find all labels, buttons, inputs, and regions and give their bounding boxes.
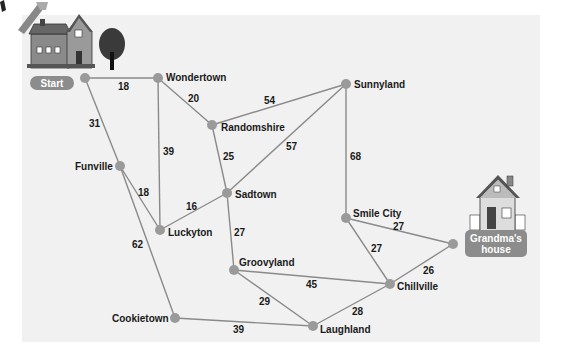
node-luckyton[interactable] <box>155 225 165 235</box>
weight-laughland-chillville: 28 <box>352 306 364 317</box>
weight-funville-cookietown: 62 <box>132 239 144 250</box>
edge-chillville-grandma <box>390 244 453 284</box>
weight-sadtown-groovyland: 27 <box>234 227 246 238</box>
start-house-icon <box>27 14 95 68</box>
label-sunnyland: Sunnyland <box>354 79 405 90</box>
edge-wondertown-luckyton <box>158 78 160 230</box>
weight-groovyland-laughland: 29 <box>259 296 271 307</box>
tree-icon <box>99 28 125 70</box>
weight-randomshire-sadtown: 25 <box>223 151 235 162</box>
label-chillville: Chillville <box>397 281 439 292</box>
edge-sadtown-groovyland <box>227 193 234 270</box>
weight-start-wondertown: 18 <box>118 81 130 92</box>
edge-wondertown-randomshire <box>158 78 212 125</box>
nodes <box>80 73 458 331</box>
weight-start-funville: 31 <box>89 118 101 129</box>
label-cookietown: Cookietown <box>112 313 169 324</box>
weight-groovyland-chillville: 45 <box>306 279 318 290</box>
edge-smilecity-chillville <box>346 218 390 284</box>
edge-groovyland-laughland <box>234 270 313 326</box>
grandma-badge: Grandma's house <box>465 230 527 257</box>
label-wondertown: Wondertown <box>166 72 226 83</box>
node-start[interactable] <box>80 73 90 83</box>
route-map: 18 31 20 39 54 25 57 68 18 62 16 27 27 2… <box>0 0 562 357</box>
node-laughland[interactable] <box>308 321 318 331</box>
weight-randomshire-sunnyland: 54 <box>264 95 276 106</box>
label-laughland: Laughland <box>320 324 371 335</box>
node-chillville[interactable] <box>385 279 395 289</box>
weight-luckyton-sadtown: 16 <box>186 201 198 212</box>
weight-wondertown-randomshire: 20 <box>188 93 200 104</box>
node-grandma[interactable] <box>448 239 458 249</box>
label-randomshire: Randomshire <box>221 122 285 133</box>
weight-wondertown-luckyton: 39 <box>163 146 175 157</box>
weight-funville-luckyton: 18 <box>138 187 150 198</box>
weight-sunnyland-smilecity: 68 <box>350 151 362 162</box>
weight-smilecity-chillville: 27 <box>371 243 383 254</box>
start-label: Start <box>41 78 64 89</box>
node-smilecity[interactable] <box>341 213 351 223</box>
node-sadtown[interactable] <box>222 188 232 198</box>
start-badge: Start <box>30 76 74 90</box>
grandma-house-icon <box>470 175 525 231</box>
edge-sunnyland-sadtown <box>227 84 346 193</box>
weight-smilecity-grandma: 27 <box>393 221 405 232</box>
node-cookietown[interactable] <box>170 313 180 323</box>
weight-chillville-grandma: 26 <box>423 265 435 276</box>
grandma-label-line2: house <box>481 244 511 255</box>
node-groovyland[interactable] <box>229 265 239 275</box>
node-funville[interactable] <box>115 161 125 171</box>
edge-laughland-chillville <box>313 284 390 326</box>
weight-sunnyland-sadtown: 57 <box>286 141 298 152</box>
edge-randomshire-sunnyland <box>212 84 346 125</box>
label-luckyton: Luckyton <box>168 227 212 238</box>
node-wondertown[interactable] <box>153 73 163 83</box>
node-sunnyland[interactable] <box>341 79 351 89</box>
grandma-label-line1: Grandma's <box>470 233 522 244</box>
node-randomshire[interactable] <box>207 120 217 130</box>
weight-cookietown-laughland: 39 <box>233 324 245 335</box>
label-funville: Funville <box>75 161 113 172</box>
label-smilecity: Smile City <box>353 208 402 219</box>
label-sadtown: Sadtown <box>235 189 277 200</box>
label-groovyland: Groovyland <box>239 257 295 268</box>
